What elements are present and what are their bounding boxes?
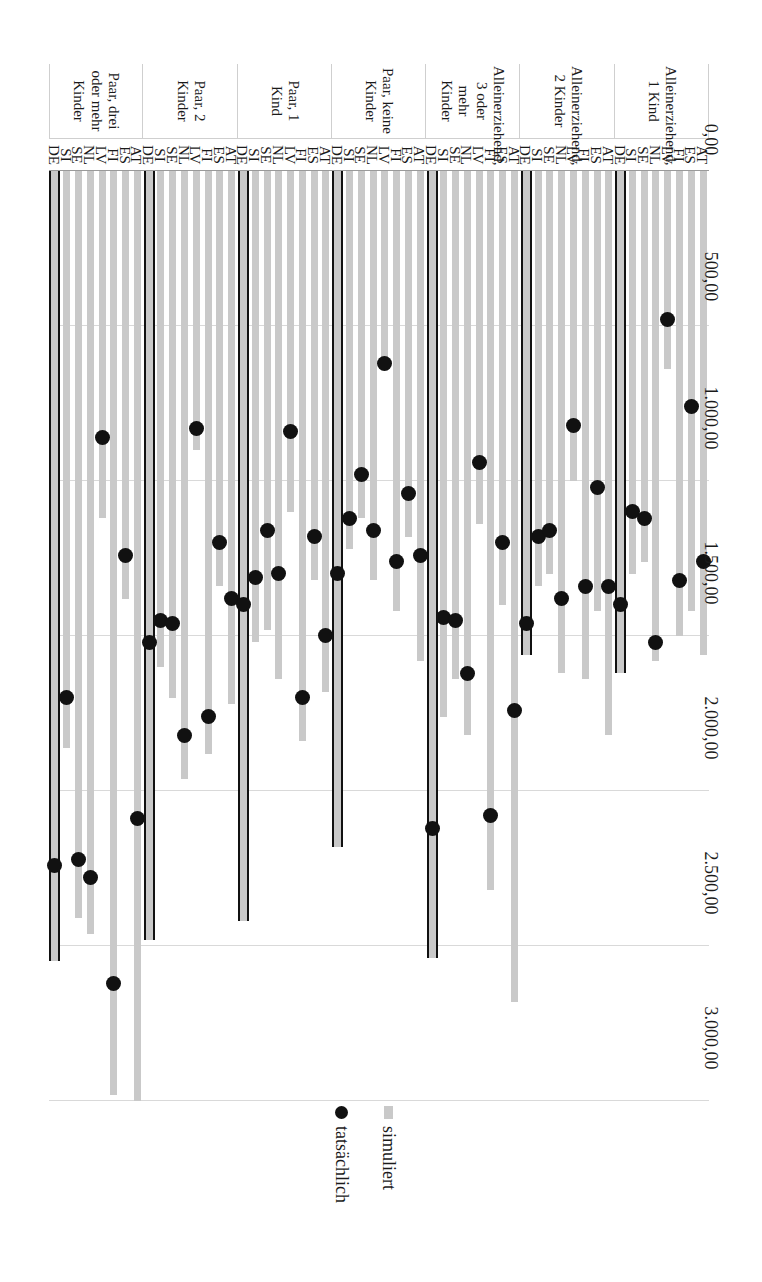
chart-row: [662, 171, 674, 1101]
chart-row: [497, 171, 509, 1101]
chart-row: [285, 171, 297, 1101]
chart-row: [143, 171, 155, 1101]
chart-row: [450, 171, 462, 1101]
chart-row: [403, 171, 415, 1101]
bar-simuliert: [476, 171, 483, 524]
chart-row: [556, 171, 568, 1101]
bar-simuliert: [393, 171, 400, 611]
bar-simuliert: [311, 171, 318, 580]
bar-simuliert: [582, 171, 589, 679]
bar-simuliert: [487, 171, 494, 890]
chart-row: [391, 171, 403, 1101]
chart-row: [179, 171, 191, 1101]
chart-row: [155, 171, 167, 1101]
axis-tick-label: 2.000,00: [700, 728, 721, 791]
rotated-chart-canvas: simulierttatsächlich DESISENLLVFIESATDES…: [31, 46, 731, 1236]
bar-simuliert: [299, 171, 306, 741]
bar-simuliert: [605, 171, 612, 735]
legend-dot-icon: [335, 1106, 348, 1119]
bar-simuliert: [664, 171, 671, 369]
chart-row: [226, 171, 238, 1101]
chart-row: [485, 171, 497, 1101]
bar-simuliert: [99, 171, 106, 518]
chart-page: simulierttatsächlich DESISENLLVFIESATDES…: [0, 0, 762, 1282]
bar-simuliert: [594, 171, 601, 611]
bar-simuliert: [49, 171, 60, 962]
chart-row: [273, 171, 285, 1101]
bar-simuliert: [521, 171, 532, 655]
axis-tick-label: 0,00: [700, 140, 721, 172]
bar-simuliert: [264, 171, 271, 630]
chart-row: [84, 171, 96, 1101]
chart-row: [473, 171, 485, 1101]
group-label-cell: Paar, 1 Kind: [238, 64, 332, 138]
category-axis-countries: DESISENLLVFIESATDESISENLLVFIESATDESISENL…: [49, 139, 709, 171]
bar-simuliert: [216, 171, 223, 586]
chart-row: [61, 171, 73, 1101]
bar-simuliert: [144, 171, 155, 940]
chart-row: [261, 171, 273, 1101]
chart-row: [438, 171, 450, 1101]
group-label-text: Alleinerziehend, 2 Kinder: [550, 66, 585, 136]
chart-row: [579, 171, 591, 1101]
bar-simuliert: [417, 171, 424, 661]
group-label-cell: Alleinerziehend, 2 Kinder: [520, 64, 614, 138]
chart-row: [344, 171, 356, 1101]
chart-area: simulierttatsächlich DESISENLLVFIESATDES…: [31, 46, 731, 1236]
bar-simuliert: [358, 171, 365, 518]
chart-row: [355, 171, 367, 1101]
bar-simuliert: [87, 171, 94, 934]
chart-row: [462, 171, 474, 1101]
chart-row: [120, 171, 132, 1101]
bar-simuliert: [676, 171, 683, 636]
chart-row: [167, 171, 179, 1101]
group-label-cell: Alleinerziehend, 3 oder mehr Kinder: [426, 64, 520, 138]
axis-tick-label: 500,00: [700, 277, 721, 327]
axis-tick-label: 1.500,00: [700, 573, 721, 636]
chart-row: [379, 171, 391, 1101]
chart-row: [214, 171, 226, 1101]
chart-row: [544, 171, 556, 1101]
chart-row: [49, 171, 61, 1101]
group-label-cell: Alleinerziehend, 1 Kind: [615, 64, 709, 138]
chart-row: [249, 171, 261, 1101]
chart-row: [650, 171, 662, 1101]
legend-label: simuliert: [378, 1126, 399, 1190]
legend-square-icon: [384, 1106, 393, 1119]
bar-simuliert: [688, 171, 695, 611]
bar-simuliert: [157, 171, 164, 667]
group-label-text: Alleinerziehend, 3 oder mehr Kinder: [438, 66, 507, 136]
chart-row: [674, 171, 686, 1101]
bar-simuliert: [641, 171, 648, 562]
bar-simuliert: [332, 171, 343, 847]
bar-simuliert: [405, 171, 412, 537]
chart-row: [509, 171, 521, 1101]
chart-row: [532, 171, 544, 1101]
bar-simuliert: [452, 171, 459, 679]
chart-row: [320, 171, 332, 1101]
legend-item: simuliert: [378, 1106, 399, 1190]
chart-row: [426, 171, 438, 1101]
chart-row: [96, 171, 108, 1101]
chart-row: [615, 171, 627, 1101]
bar-simuliert: [122, 171, 129, 599]
chart-row: [568, 171, 580, 1101]
bar-simuliert: [287, 171, 294, 512]
bar-simuliert: [75, 171, 82, 918]
bar-simuliert: [346, 171, 353, 549]
bar-simuliert: [228, 171, 235, 704]
axis-tick-label: 3.000,00: [700, 1038, 721, 1101]
chart-row: [332, 171, 344, 1101]
chart-row: [367, 171, 379, 1101]
chart-row: [73, 171, 85, 1101]
group-axis-family-types: Paar, drei oder mehr KinderPaar, 2 Kinde…: [49, 64, 709, 139]
group-label-text: Paar, keine Kinder: [361, 66, 396, 136]
bar-simuliert: [322, 171, 329, 692]
chart-legend: simulierttatsächlich: [331, 1106, 399, 1236]
bar-simuliert: [381, 171, 388, 369]
chart-row: [108, 171, 120, 1101]
chart-row: [627, 171, 639, 1101]
bar-simuliert: [464, 171, 471, 735]
group-label-text: Paar, drei oder mehr Kinder: [70, 66, 122, 136]
group-label-text: Alleinerziehend, 1 Kind: [644, 66, 679, 136]
